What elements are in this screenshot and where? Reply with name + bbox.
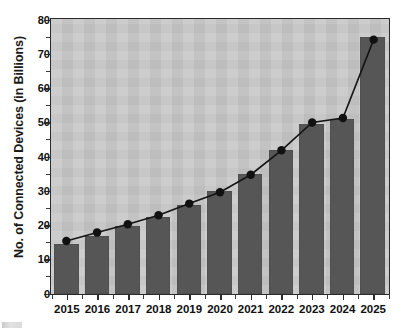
x-tick-label-2024: 2024 — [330, 303, 356, 315]
chart-figure: No. of Connected Devices (in Billions) 0… — [0, 0, 412, 335]
x-tick-label-2017: 2017 — [115, 303, 141, 315]
y-axis-ticks: 01020304050607080 — [0, 0, 50, 335]
x-tick-mark-minor-4 — [174, 295, 175, 299]
x-tick-label-2015: 2015 — [54, 303, 80, 315]
x-tick-label-2021: 2021 — [238, 303, 264, 315]
x-tick-mark-minor-1 — [82, 295, 83, 299]
scan-artifact — [2, 322, 22, 328]
x-tick-mark-minor-5 — [205, 295, 206, 299]
x-tick-mark-minor-7 — [266, 295, 267, 299]
x-tick-mark-2023 — [312, 295, 314, 300]
trend-line-path — [66, 40, 373, 241]
marker-2017 — [124, 220, 132, 228]
x-tick-mark-2017 — [128, 295, 130, 300]
marker-2016 — [93, 228, 101, 236]
x-tick-mark-minor-6 — [235, 295, 236, 299]
marker-2024 — [339, 114, 347, 122]
x-tick-label-2022: 2022 — [268, 303, 294, 315]
x-tick-mark-minor-9 — [327, 295, 328, 299]
x-tick-mark-minor-end — [389, 295, 390, 299]
marker-2020 — [216, 188, 224, 196]
marker-2023 — [308, 118, 316, 126]
x-tick-mark-2024 — [343, 295, 345, 300]
marker-2019 — [185, 199, 193, 207]
x-tick-label-2018: 2018 — [146, 303, 172, 315]
x-tick-mark-minor-2 — [113, 295, 114, 299]
x-tick-mark-2021 — [251, 295, 253, 300]
line-series — [51, 19, 389, 294]
x-tick-label-2019: 2019 — [177, 303, 203, 315]
marker-2021 — [247, 171, 255, 179]
marker-2015 — [62, 237, 70, 245]
x-tick-mark-minor-8 — [297, 295, 298, 299]
marker-2025 — [369, 35, 377, 43]
x-tick-label-2025: 2025 — [360, 303, 386, 315]
x-tick-mark-2020 — [220, 295, 222, 300]
x-tick-mark-minor-0 — [52, 295, 53, 299]
x-tick-mark-minor-3 — [143, 295, 144, 299]
x-tick-label-2023: 2023 — [299, 303, 325, 315]
x-tick-mark-2015 — [67, 295, 69, 300]
x-tick-mark-2016 — [97, 295, 99, 300]
x-tick-mark-2022 — [281, 295, 283, 300]
x-axis-ticks: 2015201620172018201920202021202220232024… — [50, 295, 390, 335]
marker-2022 — [277, 146, 285, 154]
marker-2018 — [154, 211, 162, 219]
x-tick-mark-minor-10 — [358, 295, 359, 299]
x-tick-mark-2019 — [189, 295, 191, 300]
plot-area — [50, 18, 390, 295]
x-tick-label-2016: 2016 — [85, 303, 111, 315]
x-tick-mark-2025 — [373, 295, 375, 300]
trend-line-markers — [62, 35, 378, 245]
x-tick-mark-2018 — [159, 295, 161, 300]
x-tick-label-2020: 2020 — [207, 303, 233, 315]
